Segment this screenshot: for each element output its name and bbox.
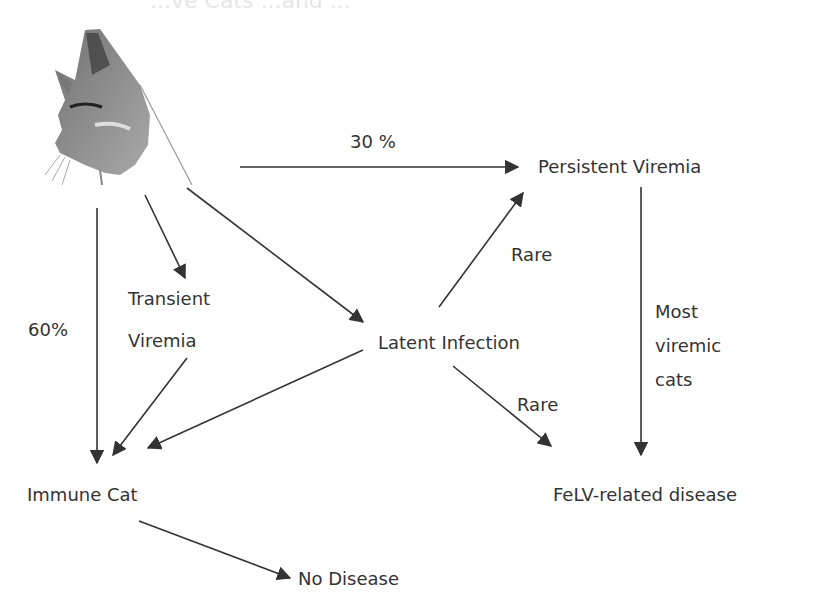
- node-no-disease: No Disease: [298, 567, 399, 591]
- arrow-cat-to-latent: [187, 188, 363, 322]
- label-most-line2: viremic: [655, 334, 721, 358]
- arrow-latent-to-immune: [148, 350, 363, 448]
- label-rare-down: Rare: [517, 393, 558, 417]
- node-transient-line1: Transient: [128, 287, 210, 311]
- node-immune-cat: Immune Cat: [27, 483, 138, 507]
- node-persistent-viremia: Persistent Viremia: [538, 155, 701, 179]
- label-rare-up: Rare: [511, 243, 552, 267]
- arrow-immune-to-nodisease: [139, 521, 290, 578]
- arrow-cat-to-transient: [145, 195, 185, 278]
- node-transient-line2: Viremia: [128, 329, 197, 353]
- label-60-percent: 60%: [28, 318, 68, 342]
- node-latent-infection: Latent Infection: [378, 331, 520, 355]
- label-most-line1: Most: [655, 300, 698, 324]
- arrow-transient-to-immune: [113, 358, 187, 455]
- label-most-line3: cats: [655, 368, 692, 392]
- label-30-percent: 30 %: [350, 130, 396, 154]
- node-felv-disease: FeLV-related disease: [553, 483, 737, 507]
